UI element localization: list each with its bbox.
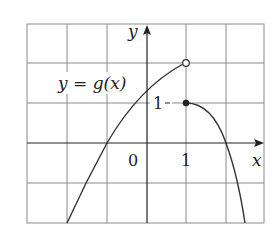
- x-tick-one-label: 1: [181, 151, 191, 170]
- filled-endpoint-marker: [183, 100, 190, 107]
- graph-figure: y x y = g(x) 1 0 1: [0, 0, 279, 237]
- y-tick-one-label: 1: [153, 94, 163, 113]
- y-axis-label: y: [127, 21, 138, 41]
- open-endpoint-marker: [183, 60, 190, 67]
- grid: [27, 24, 264, 223]
- axes: [27, 28, 262, 223]
- curve-label: y = g(x): [57, 73, 126, 93]
- x-axis-label: x: [252, 150, 262, 170]
- origin-label: 0: [128, 151, 138, 170]
- right-branch-curve: [186, 103, 245, 223]
